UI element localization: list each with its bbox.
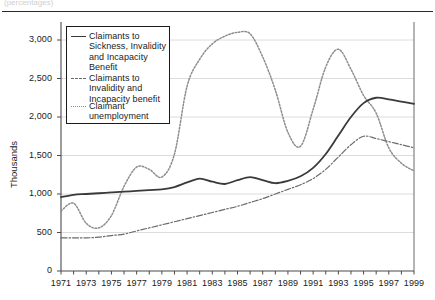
legend-item-2: Claimant unemployment xyxy=(71,101,167,122)
legend-item-0: Claimants to Sickness, Invalidity and In… xyxy=(71,31,167,73)
y-tick-label: 2,000 xyxy=(12,111,52,121)
chart-legend: Claimants to Sickness, Invalidity and In… xyxy=(66,26,170,124)
legend-item-1: Claimants to Invalidity and Incapacity b… xyxy=(71,73,167,104)
legend-label-2: Claimant unemployment xyxy=(89,101,167,122)
y-tick-label: 0 xyxy=(12,265,52,275)
y-tick-label: 3,000 xyxy=(12,34,52,44)
y-tick-label: 500 xyxy=(12,227,52,237)
y-tick-label: 1,500 xyxy=(12,150,52,160)
legend-label-1: Claimants to Invalidity and Incapacity b… xyxy=(89,73,167,104)
y-tick-label: 2,500 xyxy=(12,73,52,83)
y-tick-label: 1,000 xyxy=(12,188,52,198)
y-axis-title: Thousands xyxy=(8,141,19,188)
x-tick-label: 1999 xyxy=(399,278,429,288)
chart-page: (percentages) Thousands 05001,0001,5002,… xyxy=(0,0,435,300)
legend-swatch-dotted-icon xyxy=(71,102,86,112)
legend-swatch-dashdot-icon xyxy=(71,74,86,84)
legend-swatch-solid-icon xyxy=(71,32,86,42)
legend-label-0: Claimants to Sickness, Invalidity and In… xyxy=(89,31,167,73)
series-line-1 xyxy=(61,136,414,238)
